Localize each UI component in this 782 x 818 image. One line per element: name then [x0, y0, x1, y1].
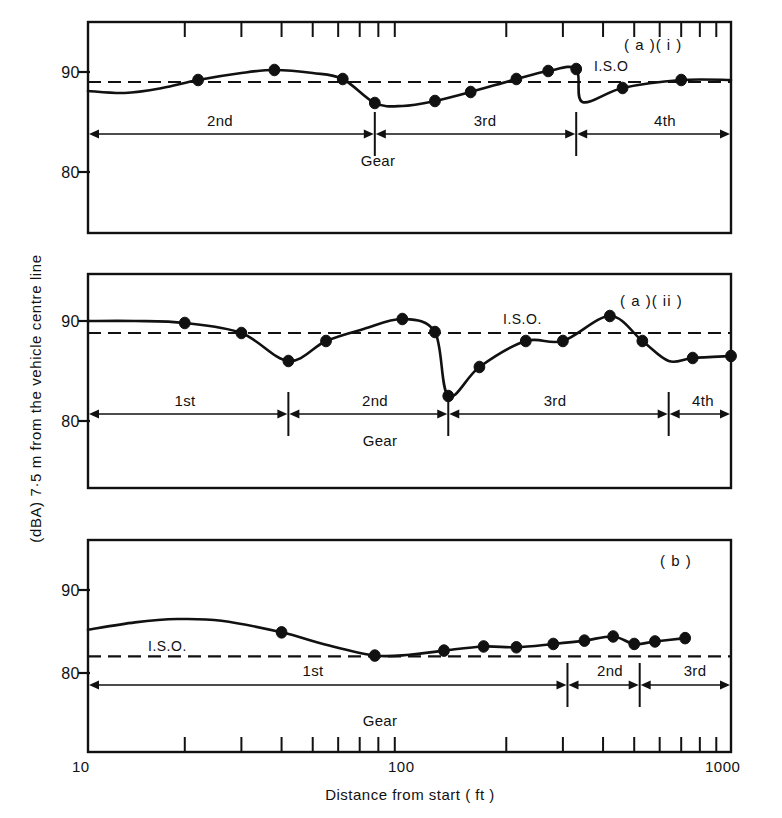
gear-span-arrowhead-right — [720, 681, 730, 690]
gear-span-arrowhead-left — [89, 410, 99, 419]
panel-tag-a-i: ( a )( i ) — [624, 36, 682, 53]
gear-caption-a-i: Gear — [328, 152, 428, 169]
data-point-marker — [608, 631, 619, 643]
data-point-marker — [430, 326, 441, 338]
gear-caption-a-ii: Gear — [330, 432, 430, 449]
y-tick-label-80-panel-b: 80 — [46, 665, 80, 683]
gear-span-arrowhead-left — [449, 410, 459, 419]
data-curve — [88, 67, 731, 107]
data-point-marker — [236, 327, 247, 339]
gear-label-a-i-1: 3rd — [425, 112, 545, 129]
data-point-marker — [579, 635, 590, 647]
iso-label-panel-a-i: I.S.O — [594, 58, 628, 74]
gear-span-arrowhead-right — [720, 130, 730, 139]
gear-span-arrowhead-left — [376, 130, 386, 139]
iso-label-panel-b: I.S.O. — [148, 638, 187, 654]
data-point-marker — [439, 645, 450, 657]
gear-label-a-ii-0: 1st — [130, 392, 240, 409]
data-point-marker — [369, 650, 380, 662]
gear-span-arrowhead-right — [364, 130, 374, 139]
data-point-marker — [465, 86, 476, 98]
gear-span-arrowhead-left — [670, 410, 680, 419]
iso-label-panel-a-ii: I.S.O. — [503, 311, 542, 327]
data-point-marker — [337, 73, 348, 85]
data-point-marker — [276, 627, 287, 639]
gear-caption-b: Gear — [330, 712, 430, 729]
data-point-marker — [687, 352, 698, 364]
data-point-marker — [543, 65, 554, 77]
gear-span-arrowhead-right — [658, 410, 668, 419]
y-tick-label-90-panel-a-i: 90 — [46, 64, 80, 82]
gear-span-arrowhead-left — [289, 410, 299, 419]
gear-span-arrowhead-right — [556, 681, 566, 690]
gear-label-b-2: 3rd — [640, 662, 750, 679]
gear-span-arrowhead-right — [565, 130, 575, 139]
y-tick-label-90-panel-b: 90 — [46, 582, 80, 600]
gear-span-arrowhead-left — [89, 130, 99, 139]
x-tick-label-10: 10 — [72, 758, 90, 775]
gear-span-arrowhead-right — [720, 410, 730, 419]
data-point-marker — [520, 335, 531, 347]
data-point-marker — [511, 641, 522, 653]
y-tick-label-80-panel-a-i: 80 — [46, 164, 80, 182]
y-tick-label-80-panel-a-ii: 80 — [46, 413, 80, 431]
x-tick-label-100: 100 — [388, 758, 415, 775]
data-point-marker — [369, 97, 380, 109]
gear-label-a-ii-3: 4th — [648, 392, 758, 409]
data-point-marker — [726, 350, 737, 362]
gear-span-arrowhead-right — [277, 410, 287, 419]
data-point-marker — [617, 82, 628, 94]
gear-label-a-i-0: 2nd — [160, 112, 280, 129]
data-point-marker — [511, 73, 522, 85]
gear-span-arrowhead-left — [89, 681, 99, 690]
gear-span-arrowhead-right — [437, 410, 447, 419]
data-point-marker — [548, 638, 559, 650]
panel-tag-a-ii: ( a )( ii ) — [620, 292, 683, 309]
gear-span-arrowhead-left — [568, 681, 578, 690]
data-point-marker — [557, 335, 568, 347]
data-point-marker — [604, 310, 615, 322]
data-point-marker — [269, 64, 280, 76]
data-point-marker — [680, 632, 691, 644]
data-point-marker — [179, 317, 190, 329]
gear-span-arrowhead-right — [629, 681, 639, 690]
gear-label-a-ii-2: 3rd — [500, 392, 610, 409]
gear-label-b-0: 1st — [258, 662, 368, 679]
data-point-marker — [571, 63, 582, 75]
data-point-marker — [676, 74, 687, 86]
gear-span-arrowhead-left — [577, 130, 587, 139]
x-axis-title: Distance from start ( ft ) — [88, 786, 732, 803]
noise-distance-figure: (dBA) 7·5 m from the vehicle centre line… — [0, 0, 782, 818]
y-axis-title: (dBA) 7·5 m from the vehicle centre line — [27, 119, 44, 679]
x-tick-label-1000: 1000 — [705, 758, 740, 775]
y-tick-label-90-panel-a-ii: 90 — [46, 313, 80, 331]
data-point-marker — [321, 335, 332, 347]
data-point-marker — [193, 74, 204, 86]
gear-span-arrowhead-left — [641, 681, 651, 690]
data-point-marker — [650, 636, 661, 648]
data-point-marker — [629, 638, 640, 650]
data-point-marker — [478, 641, 489, 653]
data-point-marker — [474, 361, 485, 373]
panel-tag-b: ( b ) — [660, 552, 692, 569]
data-point-marker — [637, 335, 648, 347]
gear-label-a-ii-1: 2nd — [320, 392, 430, 409]
data-point-marker — [397, 313, 408, 325]
gear-label-a-i-2: 4th — [605, 112, 725, 129]
data-point-marker — [430, 95, 441, 107]
data-point-marker — [283, 355, 294, 367]
